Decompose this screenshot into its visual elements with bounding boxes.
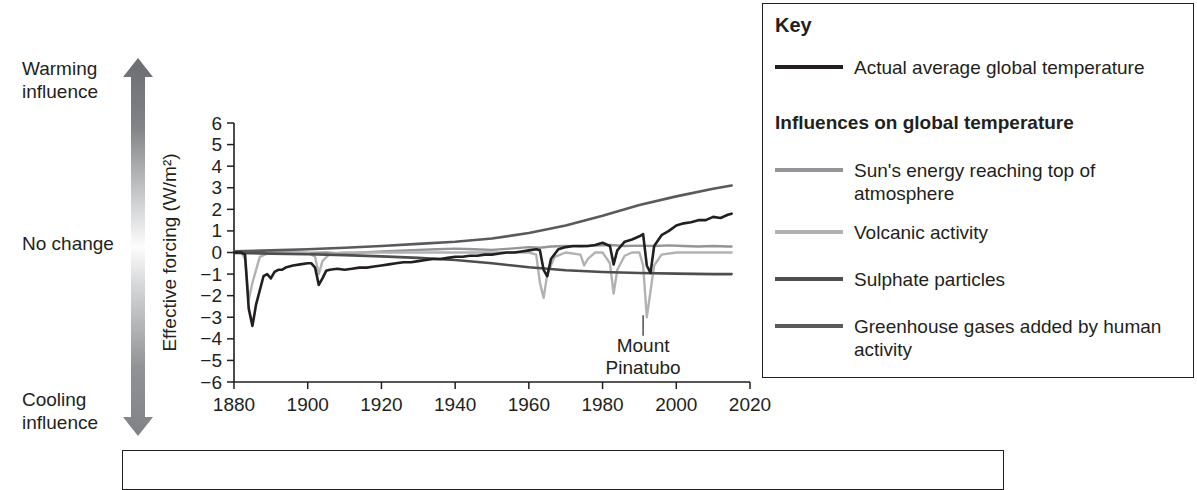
y-tick-label: 4: [211, 156, 222, 177]
y-tick-label: 6: [211, 113, 222, 134]
key-title: Key: [775, 14, 812, 37]
key-swatch-greenhouse-gases: [775, 324, 843, 328]
x-tick-label: 1920: [360, 394, 402, 415]
y-tick-label: −3: [200, 307, 222, 328]
annotations-group: MountPinatubo: [606, 315, 681, 378]
key-swatch-volcanic-activity: [775, 230, 843, 234]
key-row-sulphate-particles: Sulphate particles: [775, 268, 1185, 291]
y-axis-title: Effective forcing (W/m²): [159, 153, 180, 351]
key-label-volcanic-activity: Volcanic activity: [854, 221, 988, 244]
key-row-actual-temperature: Actual average global temperature: [775, 56, 1185, 79]
y-tick-label: −1: [200, 264, 222, 285]
key-label-greenhouse-gases: Greenhouse gases added by human activity: [854, 315, 1185, 361]
x-tick-label: 1940: [434, 394, 476, 415]
no-change-label: No change: [22, 232, 114, 255]
y-tick-label: −5: [200, 350, 222, 371]
x-tick-label: 2000: [655, 394, 697, 415]
x-tick-label: 1880: [213, 394, 255, 415]
x-axis-ticks-group: 18801900192019401960198020002020: [213, 382, 771, 415]
key-swatch-sulphate-particles: [775, 277, 843, 281]
x-tick-label: 2020: [729, 394, 771, 415]
y-tick-label: −2: [200, 285, 222, 306]
y-tick-label: −6: [200, 372, 222, 393]
y-tick-label: 1: [211, 220, 222, 241]
x-tick-label: 1980: [581, 394, 623, 415]
annotation-label: MountPinatubo: [606, 335, 681, 378]
influence-scale: Warming influence No change Cooling infl…: [0, 0, 175, 440]
y-tick-label: 0: [211, 242, 222, 263]
y-tick-label: 3: [211, 177, 222, 198]
key-label-sulphate-particles: Sulphate particles: [854, 268, 1005, 291]
y-tick-label: 5: [211, 134, 222, 155]
key-subtitle: Influences on global temperature: [775, 112, 1074, 134]
x-tick-label: 1900: [287, 394, 329, 415]
chart-canvas: Effective forcing (W/m²) 6543210−1−2−3−4…: [160, 105, 760, 440]
y-tick-label: −4: [200, 328, 222, 349]
key-label-actual-temperature: Actual average global temperature: [854, 56, 1144, 79]
y-axis-ticks-group: 6543210−1−2−3−4−5−6: [200, 113, 234, 393]
cooling-influence-label: Cooling influence: [22, 388, 98, 434]
warming-influence-label: Warming influence: [22, 57, 98, 103]
series-line: [234, 214, 732, 326]
effective-forcing-chart: Effective forcing (W/m²) 6543210−1−2−3−4…: [160, 105, 760, 440]
y-tick-label: 2: [211, 199, 222, 220]
key-box: Key Actual average global temperature In…: [762, 3, 1194, 378]
x-tick-label: 1960: [508, 394, 550, 415]
key-swatch-actual-temperature: [775, 65, 843, 69]
key-label-sun-energy: Sun's energy reaching top of atmosphere: [854, 159, 1185, 205]
key-row-greenhouse-gases: Greenhouse gases added by human activity: [775, 315, 1185, 361]
y-axis-title-group: Effective forcing (W/m²): [159, 153, 180, 351]
answer-box: [122, 450, 1004, 490]
key-row-volcanic-activity: Volcanic activity: [775, 221, 1185, 244]
series-group: [234, 186, 732, 326]
double-arrow-gradient-icon: [122, 58, 154, 436]
key-row-sun-energy: Sun's energy reaching top of atmosphere: [775, 159, 1185, 205]
key-swatch-sun-energy: [775, 168, 843, 172]
